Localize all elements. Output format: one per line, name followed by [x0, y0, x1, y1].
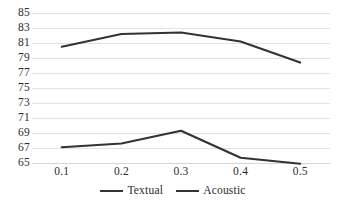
series-layer — [32, 13, 330, 163]
y-axis-tick-label: 83 — [0, 22, 30, 34]
y-axis: 8583817977757371696765 — [0, 0, 30, 175]
x-axis-tick-label: 0.4 — [233, 166, 248, 178]
series-line-textual — [62, 33, 300, 63]
y-axis-tick-label: 69 — [0, 127, 30, 139]
y-axis-tick-label: 71 — [0, 112, 30, 124]
y-axis-tick-label: 77 — [0, 67, 30, 79]
x-axis-tick-label: 0.1 — [54, 166, 69, 178]
legend-label: Acoustic — [203, 185, 245, 197]
x-axis-tick-label: 0.5 — [293, 166, 308, 178]
legend-label: Textual — [127, 185, 163, 197]
line-chart-figure: 8583817977757371696765 0.10.20.30.40.5 T… — [0, 0, 346, 209]
y-axis-tick-label: 85 — [0, 7, 30, 19]
x-axis-tick-label: 0.3 — [174, 166, 189, 178]
y-axis-tick-label: 79 — [0, 52, 30, 64]
series-line-acoustic — [62, 131, 300, 164]
chart-legend: TextualAcoustic — [0, 185, 346, 197]
legend-line-swatch — [176, 190, 199, 192]
y-axis-tick-label: 65 — [0, 157, 30, 169]
plot-area — [32, 13, 330, 163]
legend-entry-textual[interactable]: Textual — [100, 185, 163, 197]
y-axis-tick-label: 75 — [0, 82, 30, 94]
y-axis-tick-label: 73 — [0, 97, 30, 109]
legend-line-swatch — [100, 190, 123, 192]
x-axis-tick-label: 0.2 — [114, 166, 129, 178]
y-axis-tick-label: 67 — [0, 142, 30, 154]
legend-entry-acoustic[interactable]: Acoustic — [176, 185, 245, 197]
y-axis-tick-label: 81 — [0, 37, 30, 49]
x-axis: 0.10.20.30.40.5 — [32, 166, 330, 182]
